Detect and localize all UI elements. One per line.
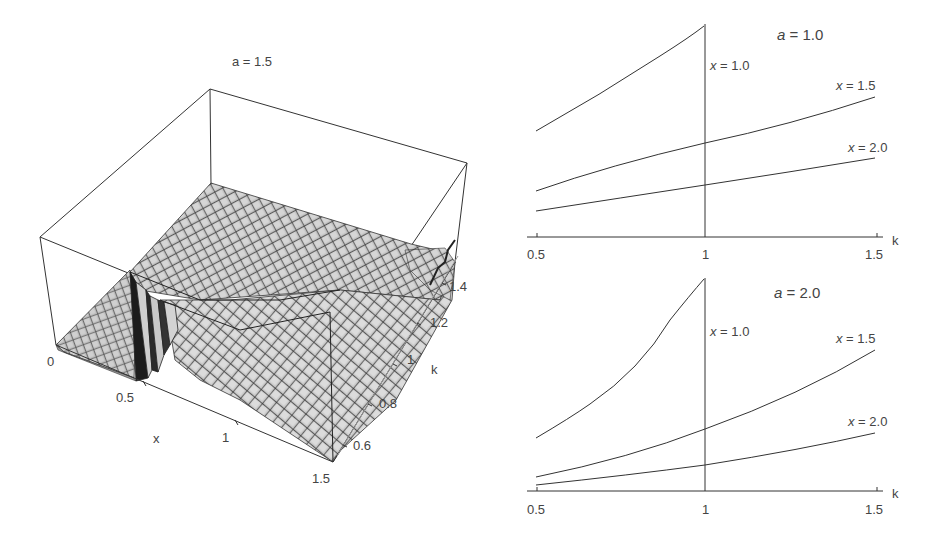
k-tick-0.6: 0.6 (353, 438, 371, 453)
label-x-1.5: x = 1.5 (835, 331, 875, 346)
line-plot-a2: a = 2.0 x = 1.0 x = 1.5 x = 2.0 0.5 1 1.… (527, 278, 899, 517)
tick-0.5: 0.5 (527, 247, 545, 262)
line-plot-a1: a = 1.0 x = 1.0 x = 1.5 x = 2.0 0.5 1 1.… (527, 24, 899, 262)
x-tick-0: 0 (47, 354, 54, 369)
plot-title-a1: a = 1.0 (777, 26, 823, 43)
x-tick-0.5: 0.5 (116, 390, 134, 405)
tick-1.5: 1.5 (865, 247, 883, 262)
k-tick-1: 1 (407, 352, 414, 367)
k-axis-label-bottom: k (892, 486, 899, 501)
plot-title-a2: a = 2.0 (774, 284, 820, 301)
k-tick-1.4: 1.4 (449, 279, 467, 294)
curve-x-1.0 (536, 26, 704, 131)
surface-plot: a = 1.5 (40, 54, 467, 486)
label-x-2.0: x = 2.0 (847, 140, 887, 155)
tick-1: 1 (702, 247, 709, 262)
x-axis-label: x (153, 431, 160, 446)
k-tick-1.2: 1.2 (430, 315, 448, 330)
label-x-2.0: x = 2.0 (847, 414, 887, 429)
x-tick-1.5: 1.5 (312, 471, 330, 486)
k-tick-0.8: 0.8 (379, 396, 397, 411)
x-tick-1: 1 (222, 430, 229, 445)
k-axis-label: k (431, 362, 438, 377)
tick-1.5: 1.5 (865, 502, 883, 517)
label-x-1.0: x = 1.0 (709, 58, 749, 73)
k-axis-label-top: k (892, 233, 899, 248)
tick-0.5: 0.5 (527, 502, 545, 517)
surface-title: a = 1.5 (232, 54, 272, 69)
label-x-1.0: x = 1.0 (709, 324, 749, 339)
surface-top-plateau (130, 183, 455, 300)
label-x-1.5: x = 1.5 (835, 78, 875, 93)
tick-1: 1 (702, 502, 709, 517)
figure: a = 1.5 (0, 0, 938, 547)
curve-x-1.0 (536, 279, 704, 438)
